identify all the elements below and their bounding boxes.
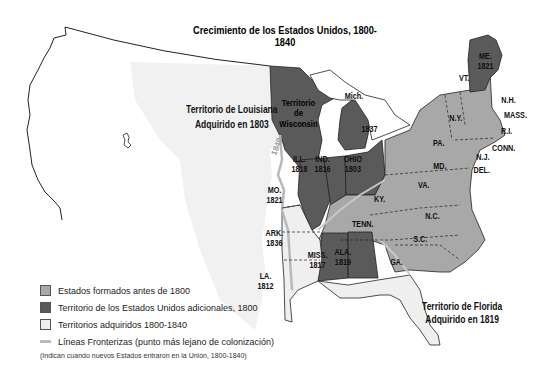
- legend-item-us-territory-1800: Territorio de los Estados Unidos adicion…: [40, 299, 274, 316]
- state-ny: N.Y.: [449, 114, 462, 124]
- state-tenn: TENN.: [352, 220, 374, 230]
- state-vt: VT.: [459, 74, 469, 84]
- state-md: MD.: [433, 162, 446, 172]
- state-me: ME.1821: [477, 52, 493, 72]
- state-del: DEL.: [473, 166, 489, 176]
- state-nj: N.J.: [476, 153, 489, 163]
- swatch-dark-gray: [40, 302, 51, 313]
- state-va: VA.: [418, 181, 430, 191]
- map-legend: Estados formados antes de 1800 Territori…: [40, 282, 274, 359]
- frontier-line-swatch: [40, 340, 51, 343]
- legend-item-frontier-lines: Líneas Fronterizas (punto más lejano de …: [40, 333, 274, 350]
- state-sc: S.C.: [413, 235, 427, 245]
- legend-note: (Indican cuando nuevos Estados entraron …: [40, 352, 274, 359]
- state-ill: ILL.1818: [291, 155, 307, 175]
- legend-item-acquired-1800-1840: Territorios adquiridos 1800-1840: [40, 316, 274, 333]
- map-title: Crecimiento de los Estados Unidos, 1800-…: [184, 24, 386, 48]
- state-ga: GA.: [390, 258, 403, 268]
- state-ri: R.I.: [501, 127, 512, 137]
- state-mass: MASS.: [504, 111, 527, 121]
- state-mo: MO.1821: [266, 186, 282, 206]
- west-coast-outline: [27, 27, 66, 220]
- state-ala: ALA.1819: [334, 248, 351, 268]
- swatch-white: [40, 319, 51, 330]
- louisiana-label: Territorio de Louisiana Adquirido en 180…: [186, 104, 277, 130]
- florida-label: Territorio de Florida Adquirido en 1819: [422, 301, 502, 325]
- state-miss: MISS.1817: [308, 251, 328, 271]
- state-conn: CONN.: [492, 144, 515, 154]
- state-ind: IND.1816: [314, 155, 330, 175]
- state-nh: N.H.: [501, 96, 515, 106]
- swatch-light-gray: [40, 285, 51, 296]
- great-salt-lake: [123, 133, 131, 148]
- state-ky: KY.: [374, 195, 385, 205]
- state-nc: N.C.: [425, 212, 439, 222]
- state-ohio: OHIO1803: [344, 155, 362, 175]
- state-ark: ARK.1836: [266, 229, 284, 249]
- mich-year: 1837: [361, 125, 377, 135]
- wisconsin-label: Territorio de Wisconsin: [279, 98, 317, 129]
- state-pa: PA.: [433, 139, 445, 149]
- legend-item-states-before-1800: Estados formados antes de 1800: [40, 282, 274, 299]
- mich-label: Mich.: [345, 92, 363, 102]
